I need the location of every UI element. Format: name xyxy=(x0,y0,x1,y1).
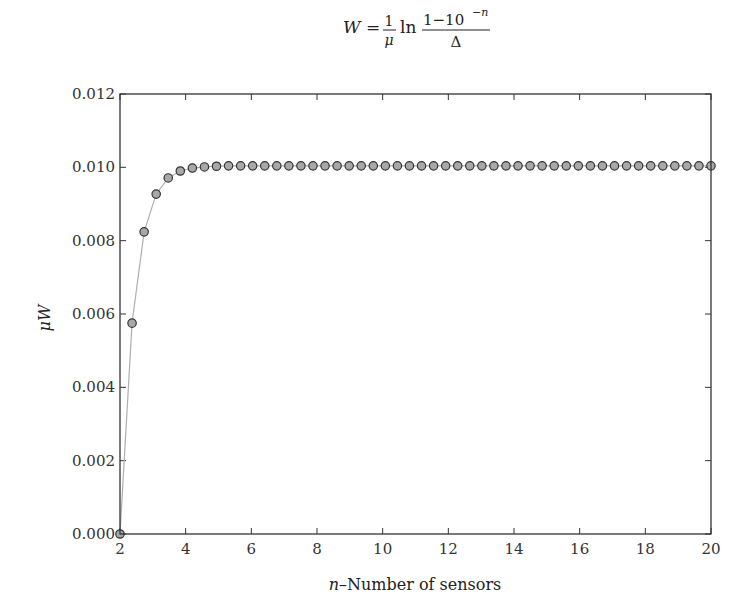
title-frac2-num: 1−10 xyxy=(423,11,464,29)
y-tick-label: 0.004 xyxy=(72,378,115,396)
data-point xyxy=(309,162,317,170)
x-axis-label: n–Number of sensors xyxy=(329,575,502,594)
data-point xyxy=(562,162,570,170)
title-ln: ln xyxy=(400,17,416,37)
data-point xyxy=(659,162,667,170)
title-frac2-exp: −n xyxy=(472,6,488,19)
data-point xyxy=(646,162,654,170)
x-tick-label: 14 xyxy=(504,540,523,558)
data-point xyxy=(405,162,413,170)
data-point xyxy=(273,162,281,170)
data-point xyxy=(441,162,449,170)
chart-title: W = 1 μ ln 1−10 −n Δ xyxy=(343,6,490,51)
data-point xyxy=(176,167,184,175)
data-point xyxy=(490,162,498,170)
data-point xyxy=(297,162,305,170)
data-point xyxy=(357,162,365,170)
x-tick-label: 16 xyxy=(570,540,589,558)
data-point xyxy=(188,164,196,172)
axis-ticks: 24681012141618200.0000.0020.0040.0060.00… xyxy=(72,85,721,558)
data-point xyxy=(212,162,220,170)
data-point xyxy=(429,162,437,170)
data-point xyxy=(321,162,329,170)
data-series xyxy=(116,162,715,539)
data-point xyxy=(224,162,232,170)
x-tick-label: 6 xyxy=(247,540,257,558)
y-tick-label: 0.000 xyxy=(72,525,115,543)
x-tick-label: 12 xyxy=(439,540,458,558)
title-frac2-den: Δ xyxy=(451,33,462,51)
x-tick-label: 10 xyxy=(373,540,392,558)
y-tick-label: 0.010 xyxy=(72,158,115,176)
x-label-text: –Number of sensors xyxy=(339,575,501,594)
title-frac1-den: μ xyxy=(384,32,393,48)
data-point xyxy=(598,162,606,170)
data-point xyxy=(514,162,522,170)
series-line xyxy=(120,166,711,534)
data-point xyxy=(466,162,474,170)
data-point xyxy=(164,174,172,182)
chart: W = 1 μ ln 1−10 −n Δ μW n–Number of sens… xyxy=(0,0,754,612)
title-lhs: W xyxy=(343,17,362,37)
y-axis-label: μW xyxy=(35,303,54,331)
title-frac1-num: 1 xyxy=(385,13,394,29)
y-tick-label: 0.002 xyxy=(72,452,115,470)
x-tick-label: 2 xyxy=(115,540,125,558)
data-point xyxy=(369,162,377,170)
data-point xyxy=(538,162,546,170)
data-point xyxy=(345,162,353,170)
data-point xyxy=(671,162,679,170)
data-point xyxy=(285,162,293,170)
data-point xyxy=(478,162,486,170)
data-point xyxy=(526,162,534,170)
x-label-var: n xyxy=(329,575,339,594)
x-tick-label: 20 xyxy=(701,540,720,558)
svg-text:μW: μW xyxy=(35,303,54,331)
data-point xyxy=(695,162,703,170)
title-equals: = xyxy=(366,17,380,37)
plot-frame xyxy=(120,94,711,534)
x-tick-label: 18 xyxy=(636,540,655,558)
data-point xyxy=(333,162,341,170)
data-point xyxy=(622,162,630,170)
data-point xyxy=(610,162,618,170)
data-point xyxy=(586,162,594,170)
data-point xyxy=(261,162,269,170)
data-point xyxy=(550,162,558,170)
data-point xyxy=(128,319,136,327)
y-tick-label: 0.006 xyxy=(72,305,115,323)
y-tick-label: 0.008 xyxy=(72,232,115,250)
y-tick-label: 0.012 xyxy=(72,85,115,103)
data-point xyxy=(634,162,642,170)
data-point xyxy=(502,162,510,170)
data-point xyxy=(236,162,244,170)
y-label-mu: μ xyxy=(35,321,54,331)
x-tick-label: 4 xyxy=(181,540,191,558)
x-tick-label: 8 xyxy=(312,540,322,558)
data-point xyxy=(381,162,389,170)
data-point xyxy=(574,162,582,170)
data-point xyxy=(417,162,425,170)
y-label-var: W xyxy=(35,303,54,321)
data-point xyxy=(683,162,691,170)
data-point xyxy=(454,162,462,170)
data-point xyxy=(248,162,256,170)
data-point xyxy=(200,163,208,171)
data-point xyxy=(140,228,148,236)
data-point xyxy=(152,190,160,198)
data-point xyxy=(393,162,401,170)
